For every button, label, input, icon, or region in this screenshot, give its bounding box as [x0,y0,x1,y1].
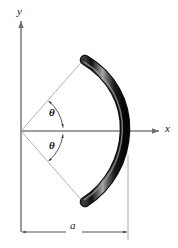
curved-rod-figure: y x θ θ a [0,0,178,248]
angle-label-upper: θ [49,107,55,118]
dimension-label: a [70,220,76,231]
y-axis-label: y [17,6,22,17]
figure-canvas [0,0,178,248]
x-axis-label: x [165,123,170,134]
radial-line-upper [21,58,85,131]
angle-label-lower: θ [49,140,55,151]
